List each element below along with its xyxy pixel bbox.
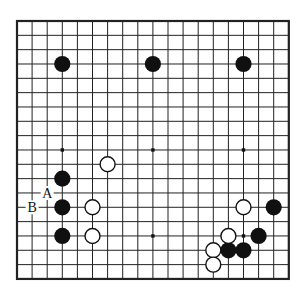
black-stone <box>251 228 267 244</box>
star-point <box>151 234 154 237</box>
white-stone <box>236 200 251 215</box>
black-stone <box>145 56 161 72</box>
star-point <box>61 148 64 151</box>
white-stone <box>85 228 100 243</box>
star-point <box>151 148 154 151</box>
point-label: A <box>42 186 53 201</box>
black-stone <box>54 56 70 72</box>
black-stone <box>54 171 70 187</box>
black-stone <box>220 242 236 258</box>
black-stone <box>54 228 70 244</box>
white-stone <box>100 157 115 172</box>
black-stone <box>235 56 251 72</box>
white-stone <box>206 243 221 258</box>
go-diagram: AB <box>0 0 305 298</box>
star-point <box>242 234 245 237</box>
white-stone <box>221 228 236 243</box>
black-stone <box>266 199 282 215</box>
black-stone <box>235 242 251 258</box>
star-point <box>242 148 245 151</box>
white-stone <box>206 257 221 272</box>
white-stone <box>85 200 100 215</box>
black-stone <box>54 199 70 215</box>
point-label: B <box>27 200 36 215</box>
go-board: AB <box>0 0 305 298</box>
